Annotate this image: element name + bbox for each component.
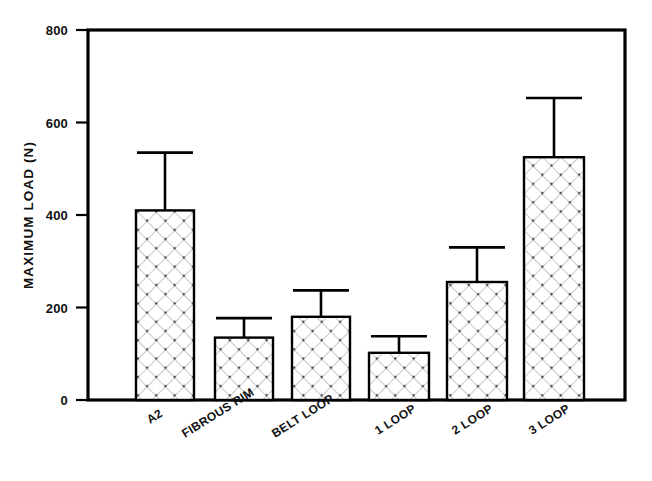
error-bar-2-loop xyxy=(449,247,505,282)
chart-figure: 0 200 400 600 800 MAXIMUM LOAD (N) xyxy=(0,0,652,481)
x-tick-label-a2: A2 xyxy=(144,406,165,426)
y-tick-label-800: 800 xyxy=(46,23,68,38)
y-tick-label-200: 200 xyxy=(46,301,68,316)
x-tick-label-1-loop: 1 LOOP xyxy=(372,401,418,437)
y-tick-label-600: 600 xyxy=(46,116,68,131)
y-axis-ticks xyxy=(76,30,88,400)
error-bar-a2 xyxy=(137,153,193,211)
bar-1-loop xyxy=(369,353,429,400)
y-tick-label-400: 400 xyxy=(46,208,68,223)
bar-a2 xyxy=(136,210,194,400)
x-tick-label-2-loop: 2 LOOP xyxy=(449,401,495,437)
bars-group xyxy=(136,157,584,400)
bar-3-loop xyxy=(524,157,584,400)
bar-2-loop xyxy=(447,282,507,400)
error-bar-fibrous-rim xyxy=(216,318,272,338)
error-bar-3-loop xyxy=(526,98,582,157)
error-bars-group xyxy=(137,98,582,353)
x-tick-label-3-loop: 3 LOOP xyxy=(526,401,572,437)
y-tick-label-0: 0 xyxy=(61,393,68,408)
bar-chart-canvas: 0 200 400 600 800 MAXIMUM LOAD (N) xyxy=(0,0,652,481)
bar-belt-loop xyxy=(292,317,350,400)
y-axis-label: MAXIMUM LOAD (N) xyxy=(21,141,36,289)
error-bar-belt-loop xyxy=(293,290,349,316)
error-bar-1-loop xyxy=(371,336,427,353)
